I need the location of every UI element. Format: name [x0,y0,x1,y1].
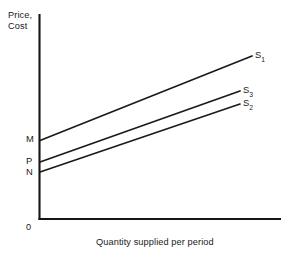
curve-label-s1: S1 [255,50,265,61]
curve-label-s1-subscript: 1 [261,56,265,63]
y-tick-label-p: P [26,156,32,167]
origin-label: 0 [26,222,31,233]
supply-curve-s2 [40,104,240,172]
chart-canvas [0,0,285,259]
y-axis-title-line2: Cost [8,21,32,32]
x-axis-title: Quantity supplied per period [96,237,214,248]
y-axis-title-line1: Price, [8,10,32,21]
curve-label-s3: S3 [243,85,253,96]
supply-curve-s3 [40,91,240,162]
y-tick-label-n: N [26,167,33,178]
curve-label-s2: S2 [243,98,253,109]
supply-curve-figure: Price, Cost Quantity supplied per period… [0,0,285,259]
y-tick-label-m: M [26,134,34,145]
y-axis-title: Price, Cost [8,10,32,31]
curve-label-s2-subscript: 2 [249,104,253,111]
